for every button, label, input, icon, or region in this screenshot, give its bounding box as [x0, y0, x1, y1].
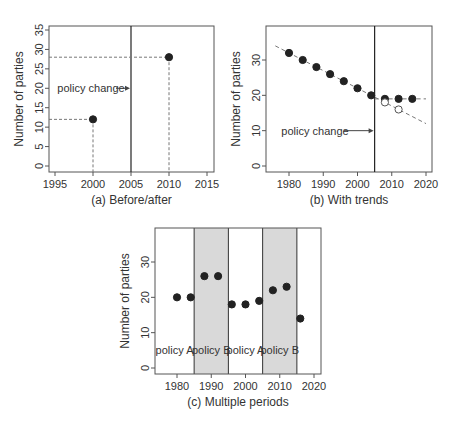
data-point [89, 116, 96, 123]
data-point [201, 273, 208, 280]
figure: 1995200020052010201505101520253035Number… [0, 0, 454, 421]
y-tick-label: 10 [250, 125, 262, 137]
x-tick-label: 1995 [43, 178, 67, 190]
y-axis-label: Number of parties [229, 51, 243, 146]
data-point [327, 71, 334, 78]
plot-area [266, 26, 432, 172]
y-tick-label: 25 [33, 63, 45, 75]
y-tick-label: 15 [33, 102, 45, 114]
period-label: policy A [156, 344, 195, 356]
data-point [354, 85, 361, 92]
data-point [313, 63, 320, 70]
x-tick-label: 2020 [302, 380, 326, 392]
y-tick-label: 5 [33, 144, 45, 150]
x-tick-label: 2010 [157, 178, 181, 190]
y-tick-label: 0 [139, 365, 151, 371]
data-point [215, 273, 222, 280]
y-tick-label: 35 [33, 24, 45, 36]
x-tick-label: 1990 [199, 380, 223, 392]
period-label: policy A [227, 344, 266, 356]
panel-b: 198019902000201020200102030Number of par… [229, 26, 438, 207]
data-point [340, 78, 347, 85]
y-tick-label: 10 [139, 327, 151, 339]
y-tick-label: 20 [139, 291, 151, 303]
x-tick-label: 2020 [414, 178, 438, 190]
panel-title: (b) With trends [310, 193, 389, 207]
data-point [395, 106, 402, 113]
panel-a: 1995200020052010201505101520253035Number… [12, 24, 219, 207]
y-tick-label: 20 [33, 82, 45, 94]
x-tick-label: 2000 [81, 178, 105, 190]
y-tick-label: 30 [33, 43, 45, 55]
trend-line [275, 46, 426, 124]
data-point [395, 95, 402, 102]
x-tick-label: 2010 [268, 380, 292, 392]
x-tick-label: 2015 [195, 178, 219, 190]
panel-title: (a) Before/after [91, 193, 172, 207]
data-point [173, 294, 180, 301]
data-point [368, 92, 375, 99]
y-axis-label: Number of parties [118, 253, 132, 348]
period-label: policy B [192, 344, 231, 356]
data-point [299, 56, 306, 63]
x-tick-label: 2010 [380, 178, 404, 190]
y-tick-label: 0 [250, 163, 262, 169]
y-tick-label: 0 [33, 163, 45, 169]
y-tick-label: 30 [139, 256, 151, 268]
data-point [165, 54, 172, 61]
y-tick-label: 30 [250, 54, 262, 66]
arrow-icon [125, 86, 130, 91]
y-tick-label: 10 [33, 121, 45, 133]
x-tick-label: 1980 [277, 178, 301, 190]
arrow-icon [369, 128, 374, 133]
data-point [283, 283, 290, 290]
data-point [242, 301, 249, 308]
annotation-label: policy change [281, 125, 348, 137]
data-point [269, 287, 276, 294]
panel-title: (c) Multiple periods [187, 395, 288, 409]
y-axis-label: Number of parties [12, 51, 26, 146]
data-point [256, 297, 263, 304]
y-tick-label: 20 [250, 89, 262, 101]
data-point [409, 95, 416, 102]
x-tick-label: 1990 [311, 178, 335, 190]
data-point [381, 99, 388, 106]
data-point [228, 301, 235, 308]
x-tick-label: 2005 [119, 178, 143, 190]
x-tick-label: 2000 [345, 178, 369, 190]
x-tick-label: 1980 [165, 380, 189, 392]
data-point [297, 315, 304, 322]
annotation-label: policy change [57, 82, 124, 94]
period-label: policy B [260, 344, 299, 356]
x-tick-label: 2000 [233, 380, 257, 392]
data-point [187, 294, 194, 301]
data-point [285, 49, 292, 56]
panel-c: policy Apolicy Bpolicy Apolicy B19801990… [118, 228, 326, 409]
